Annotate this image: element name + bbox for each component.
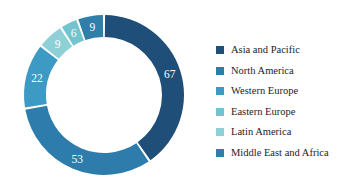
legend-item-label: North America xyxy=(231,66,294,77)
donut-slice[interactable] xyxy=(25,106,148,175)
legend-item[interactable]: Asia and Pacific xyxy=(216,40,360,61)
donut-slice-value-label: 67 xyxy=(164,68,176,80)
donut-chart: 675322969 xyxy=(14,8,194,183)
legend-item-label: Eastern Europe xyxy=(231,107,295,118)
legend-item-label: Latin America xyxy=(231,127,291,138)
donut-slice[interactable] xyxy=(105,15,184,160)
legend-swatch-icon xyxy=(216,87,224,95)
legend-item[interactable]: Latin America xyxy=(216,122,360,143)
legend-swatch-icon xyxy=(216,128,224,136)
legend-item[interactable]: Western Europe xyxy=(216,81,360,102)
legend-item[interactable]: Middle East and Africa xyxy=(216,143,360,164)
donut-slice-value-label: 9 xyxy=(55,38,61,50)
legend-swatch-icon xyxy=(216,149,224,157)
legend-swatch-icon xyxy=(216,67,224,75)
donut-slice-value-label: 53 xyxy=(72,153,84,165)
donut-slice-value-label: 22 xyxy=(31,72,43,84)
donut-slice-value-label: 6 xyxy=(71,27,77,39)
legend-swatch-icon xyxy=(216,46,224,54)
legend-item[interactable]: Eastern Europe xyxy=(216,102,360,123)
chart-legend: Asia and PacificNorth AmericaWestern Eur… xyxy=(216,40,360,163)
donut-slices xyxy=(24,15,184,175)
legend-item-label: Asia and Pacific xyxy=(231,45,300,56)
chart-container: 675322969 Asia and PacificNorth AmericaW… xyxy=(0,0,360,190)
legend-item[interactable]: North America xyxy=(216,61,360,82)
donut-slice-value-label: 9 xyxy=(89,21,95,33)
legend-swatch-icon xyxy=(216,108,224,116)
legend-item-label: Middle East and Africa xyxy=(231,148,329,159)
legend-item-label: Western Europe xyxy=(231,86,298,97)
donut-chart-svg: 675322969 xyxy=(14,8,194,183)
